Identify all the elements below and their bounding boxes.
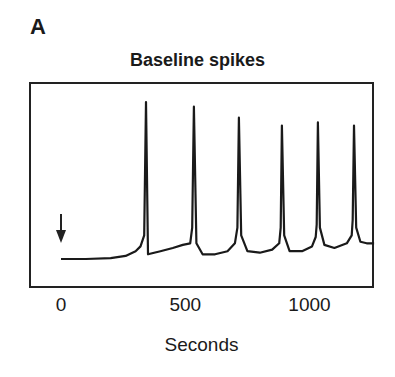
x-tick-label: 1000 [288, 294, 330, 316]
plot-frame [30, 83, 373, 287]
x-tick-label: 0 [56, 294, 67, 316]
spike-trace [61, 102, 374, 259]
arrow-down-icon [56, 214, 66, 243]
x-tick-label: 500 [169, 294, 201, 316]
x-axis-label: Seconds [0, 334, 395, 356]
plot-area [0, 0, 395, 377]
